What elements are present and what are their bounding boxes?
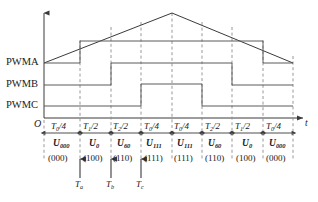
origin-label: O <box>34 119 41 129</box>
pwma-label: PWMA <box>6 57 39 68</box>
switch-marker-ta: Ta <box>75 180 83 190</box>
segment-duration-6: T1/2 <box>235 122 250 132</box>
switch-state-2: (110) <box>113 154 132 163</box>
voltage-vector-7: U000 <box>269 139 286 149</box>
segment-duration-3: T0/4 <box>144 122 159 132</box>
voltage-vector-0: U000 <box>53 139 70 149</box>
time-axis-label: t <box>305 119 308 129</box>
pwmb-label: PWMB <box>6 79 38 90</box>
switch-state-1: (100) <box>83 154 103 163</box>
pwmc-waveform <box>44 84 293 106</box>
timing-diagram-svg <box>0 0 318 202</box>
switch-marker-tb: Tb <box>106 180 114 190</box>
voltage-vector-2: U60 <box>117 139 130 149</box>
voltage-vector-6: U0 <box>242 139 252 149</box>
switch-state-5: (110) <box>205 154 224 163</box>
lower-boundary-guides <box>44 133 293 160</box>
voltage-vector-3: U111 <box>146 139 162 149</box>
switch-state-6: (100) <box>236 154 256 163</box>
figure-canvas: PWMA PWMB PWMC O t T0/4 T1/2 T2/2 T0/4 T… <box>0 0 318 202</box>
segment-duration-4: T0/4 <box>174 122 189 132</box>
segment-duration-5: T2/2 <box>205 122 220 132</box>
voltage-vector-1: U0 <box>89 139 99 149</box>
switch-state-7: (000) <box>266 154 286 163</box>
segment-duration-7: T0/4 <box>266 122 281 132</box>
segment-duration-0: T0/4 <box>51 122 66 132</box>
pwma-waveform <box>44 41 293 63</box>
triangular-carrier <box>44 13 293 63</box>
segment-boundary-lines <box>44 13 293 133</box>
switch-state-4: (111) <box>174 154 193 163</box>
voltage-vector-4: U111 <box>177 139 193 149</box>
switch-state-0: (000) <box>48 154 68 163</box>
switch-state-3: (111) <box>144 154 163 163</box>
switch-marker-tc: Tc <box>136 180 144 190</box>
segment-duration-1: T1/2 <box>83 122 98 132</box>
voltage-vector-5: U60 <box>208 139 221 149</box>
pwmb-waveform <box>44 63 293 85</box>
pwmc-label: PWMC <box>6 100 38 111</box>
segment-duration-2: T2/2 <box>113 122 128 132</box>
